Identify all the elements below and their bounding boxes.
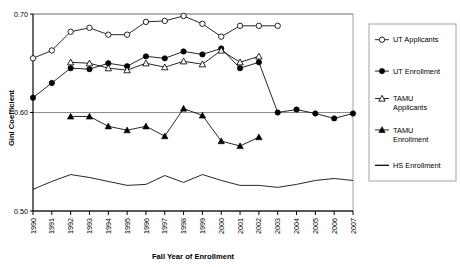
x-tick-label-1993: 1993 [85,218,94,234]
data-point-2005 [313,111,318,116]
x-tick-label-1997: 1997 [160,218,169,234]
data-point-1990 [30,56,35,61]
data-point-2003 [275,110,280,115]
data-point-1992 [68,65,73,70]
data-point-1991 [49,48,54,53]
data-point-1996 [143,19,148,24]
x-tick-label-1992: 1992 [66,218,75,234]
x-tick-label-2002: 2002 [254,218,263,234]
legend-label: TAMU [393,94,413,103]
y-tick-label-0.60: 0.60 [14,108,28,117]
x-tick-label-2001: 2001 [236,218,245,234]
data-point-1991 [49,80,54,85]
data-point-1995 [124,32,129,37]
x-tick-label-1994: 1994 [104,218,113,234]
x-tick-label-2004: 2004 [292,218,301,234]
x-axis-title: Fall Year of Enrollment [152,252,235,261]
x-tick-label-1991: 1991 [47,218,56,234]
y-tick-label-0.70: 0.70 [14,10,28,19]
legend-label: TAMU [393,126,413,135]
data-point-2001 [237,65,242,70]
data-point-1999 [200,52,205,57]
x-tick-label-2000: 2000 [217,218,226,234]
x-tick-label-1996: 1996 [142,218,151,234]
x-tick-label-1990: 1990 [29,218,38,234]
legend-label-line2: Applicants [393,103,427,112]
data-point-1996 [143,54,148,59]
x-tick-label-1999: 1999 [198,218,207,234]
data-point-2002 [256,23,261,28]
data-point-1992 [68,29,73,34]
legend-marker-icon [379,37,384,42]
x-tick-label-1995: 1995 [123,218,132,234]
y-tick-label-0.50: 0.50 [14,207,28,216]
legend-label: UT Applicants [393,35,439,44]
x-tick-label-2006: 2006 [330,218,339,234]
y-axis-title: Gini Coefficient [7,89,16,146]
data-point-2006 [331,116,336,121]
data-point-2007 [350,111,355,116]
x-tick-label-2003: 2003 [273,218,282,234]
data-point-1997 [162,18,167,23]
chart-figure: 0.500.600.70 199019911992199319941995199… [0,0,460,267]
chart-svg: 0.500.600.70 199019911992199319941995199… [0,0,460,267]
data-point-2001 [237,23,242,28]
x-tick-label-2007: 2007 [349,218,358,234]
data-point-1998 [181,13,186,18]
x-tick-label-1998: 1998 [179,218,188,234]
data-point-1994 [106,32,111,37]
legend-label: HS Enrollment [393,161,441,170]
data-point-1999 [200,21,205,26]
legend-label: UT Enrollment [393,67,440,76]
data-point-2000 [219,34,224,39]
data-point-2002 [256,60,261,65]
data-point-1993 [87,25,92,30]
data-point-2004 [294,107,299,112]
data-point-1998 [181,49,186,54]
chart-legend: UT ApplicantsUT EnrollmentTAMUApplicants… [369,24,456,181]
data-point-2003 [275,23,280,28]
x-tick-label-2005: 2005 [311,218,320,234]
legend-label-line2: Enrollment [393,135,428,144]
data-point-1990 [30,95,35,100]
data-point-1993 [87,66,92,71]
data-point-1997 [162,56,167,61]
legend-marker-icon [379,68,384,73]
